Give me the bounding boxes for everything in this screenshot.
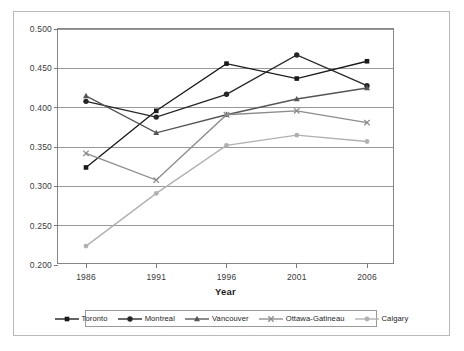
- data-point: [224, 61, 229, 66]
- legend-item-vancouver[interactable]: Vancouver: [184, 314, 249, 324]
- legend-label: Calgary: [382, 314, 409, 323]
- legend-swatch: [54, 314, 80, 324]
- data-point: [83, 99, 88, 104]
- series-calgary: [84, 133, 370, 249]
- legend-label: Ottawa-Gatineau: [286, 314, 345, 323]
- legend-swatch: [258, 314, 284, 324]
- data-point: [154, 114, 159, 119]
- data-point: [83, 93, 89, 98]
- x-axis-label: 2006: [357, 272, 377, 282]
- legend-item-montreal[interactable]: Montreal: [117, 314, 175, 324]
- data-point: [224, 143, 229, 148]
- series-layer: [58, 29, 395, 265]
- legend-label: Vancouver: [212, 314, 249, 323]
- series-line: [86, 135, 367, 246]
- legend-item-ottawa-gatineau[interactable]: Ottawa-Gatineau: [258, 314, 345, 324]
- data-point: [294, 76, 299, 81]
- y-axis-label: 0.500: [30, 24, 52, 34]
- x-axis-label: 2001: [287, 272, 307, 282]
- plot-area: 0.2000.2500.3000.3500.4000.4500.500 1986…: [57, 28, 394, 264]
- data-point: [154, 109, 159, 114]
- chart-figure: 0.2000.2500.3000.3500.4000.4500.500 1986…: [0, 0, 464, 351]
- data-point: [84, 165, 89, 170]
- legend-swatch: [184, 314, 210, 324]
- legend-swatch: [354, 314, 380, 324]
- y-axis-label: 0.450: [30, 63, 52, 73]
- legend-item-calgary[interactable]: Calgary: [354, 314, 409, 324]
- data-point: [294, 133, 299, 138]
- chart-legend: TorontoMontrealVancouverOttawa-GatineauC…: [85, 310, 377, 327]
- data-point: [154, 191, 159, 196]
- data-point: [294, 52, 299, 57]
- y-axis-label: 0.250: [30, 221, 52, 231]
- data-point: [224, 92, 229, 97]
- y-axis-label: 0.350: [30, 142, 52, 152]
- y-axis-label: 0.200: [30, 260, 52, 270]
- legend-label: Toronto: [82, 314, 108, 323]
- legend-swatch: [117, 314, 143, 324]
- x-axis-label: 1986: [76, 272, 96, 282]
- data-point: [365, 139, 370, 144]
- legend-item-toronto[interactable]: Toronto: [54, 314, 108, 324]
- data-point: [365, 59, 370, 64]
- y-axis-label: 0.400: [30, 103, 52, 113]
- y-axis-label: 0.300: [30, 181, 52, 191]
- legend-label: Montreal: [145, 314, 175, 323]
- x-axis-label: 1991: [146, 272, 166, 282]
- data-point: [84, 244, 89, 249]
- x-axis-label: 1996: [217, 272, 237, 282]
- x-axis-title: Year: [57, 286, 394, 297]
